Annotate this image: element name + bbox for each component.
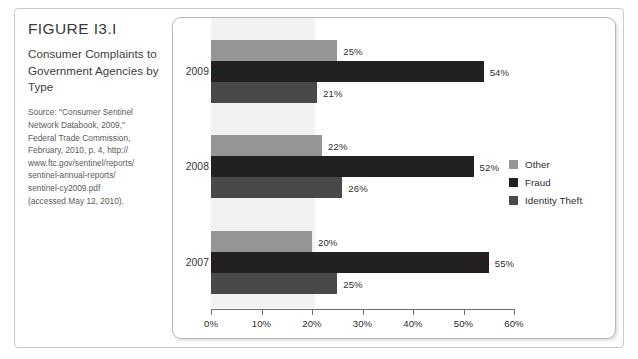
bar-row: 22% [211,135,514,156]
bar-identity-2007 [211,273,337,294]
x-axis-tick [312,309,313,315]
x-axis-tick [514,309,515,315]
bar-fraud-2007 [211,252,489,273]
source-line: www.ftc.gov/sentinel/reports/ [28,157,164,170]
x-axis-tick-label: 10% [252,318,272,329]
legend-item-identity: Identity Theft [509,194,582,206]
bar-value-label: 25% [343,45,363,56]
legend-item-fraud: Fraud [509,176,582,188]
bar-value-label: 22% [328,140,348,151]
bar-other-2009 [211,40,337,61]
year-label-2009: 2009 [175,66,209,77]
figure-page: FIGURE I3.I Consumer Complaints to Gover… [0,0,638,359]
x-axis-tick-label: 50% [454,318,474,329]
legend-label: Fraud [525,177,551,188]
figure-number: FIGURE I3.I [28,20,164,37]
chart-legend: OtherFraudIdentity Theft [509,158,582,212]
x-axis-tick [464,309,465,315]
source-line: sentinel-cy2009.pdf [28,182,164,195]
bar-value-label: 54% [490,66,510,77]
bar-value-label: 21% [323,87,343,98]
bar-row: 54% [211,61,514,82]
figure-title: Consumer Complaints to Government Agenci… [28,46,164,95]
legend-swatch-icon [509,196,518,205]
source-line: Federal Trade Commission, [28,132,164,145]
source-line: Network Databook, 2009," [28,119,164,132]
bar-value-label: 52% [480,161,500,172]
year-label-2007: 2007 [175,257,209,268]
x-axis-tick [363,309,364,315]
x-axis-tick-label: 20% [302,318,322,329]
source-line: (accessed May 12, 2010). [28,195,164,208]
bar-row: 52% [211,156,514,177]
bar-value-label: 25% [343,278,363,289]
legend-swatch-icon [509,160,518,169]
source-line: Source: "Consumer Sentinel [28,106,164,119]
x-axis-tick [211,309,212,315]
bar-value-label: 55% [495,257,515,268]
bar-value-label: 20% [318,236,338,247]
x-axis-tick-label: 0% [204,318,218,329]
x-axis-tick [262,309,263,315]
bar-fraud-2008 [211,156,474,177]
x-axis-tick-label: 40% [403,318,423,329]
bar-row: 21% [211,82,514,103]
legend-label: Other [525,159,550,170]
source-line: sentinel-annual-reports/ [28,169,164,182]
bar-other-2008 [211,135,322,156]
x-axis-tick-label: 60% [504,318,524,329]
bar-row: 55% [211,252,514,273]
bar-row: 25% [211,273,514,294]
bar-value-label: 26% [348,182,368,193]
chart-panel: 0%10%20%30%40%50%60%200925%54%21%200822%… [172,17,616,339]
bar-fraud-2009 [211,61,484,82]
year-label-2008: 2008 [175,161,209,172]
source-line: February, 2010, p. 4, http:// [28,144,164,157]
legend-item-other: Other [509,158,582,170]
legend-label: Identity Theft [525,195,582,206]
bar-row: 25% [211,40,514,61]
bar-row: 20% [211,231,514,252]
figure-source-note: Source: "Consumer SentinelNetwork Databo… [28,106,164,207]
figure-caption-column: FIGURE I3.I Consumer Complaints to Gover… [28,20,164,207]
bar-identity-2008 [211,177,342,198]
bar-other-2007 [211,231,312,252]
x-axis-tick-label: 30% [353,318,373,329]
x-axis-tick [413,309,414,315]
bar-row: 26% [211,177,514,198]
bar-identity-2009 [211,82,317,103]
legend-swatch-icon [509,178,518,187]
